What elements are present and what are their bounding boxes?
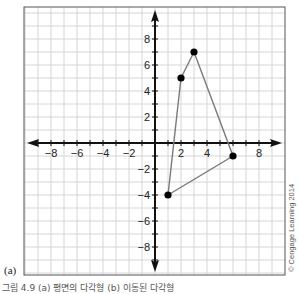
vertex-point [190, 48, 197, 55]
y-tick-label: −2 [137, 163, 150, 175]
y-tick-label: −6 [137, 215, 150, 227]
x-tick-label: 8 [256, 147, 262, 159]
panel-label: (a) [4, 264, 17, 277]
x-tick-label: −4 [97, 147, 110, 159]
polygon-series [164, 48, 236, 198]
coordinate-plane-chart: −8−6−4−22488642−2−4−6−8 (a) © Cengage Le… [0, 0, 298, 294]
vertex-point [177, 74, 184, 81]
figure-caption: 그림 4.9 (a) 평면의 다각형 (b) 이동된 다각형 [2, 281, 174, 294]
vertex-point [164, 191, 171, 198]
x-tick-label: −6 [71, 147, 84, 159]
x-tick-label: 2 [178, 147, 184, 159]
y-tick-label: 4 [144, 85, 150, 97]
x-tick-label: −8 [45, 147, 58, 159]
y-tick-label: 6 [144, 59, 150, 71]
vertex-point [229, 152, 236, 159]
y-tick-label: 2 [144, 111, 150, 123]
y-tick-label: 8 [144, 33, 150, 45]
polygon-edges [168, 52, 233, 195]
x-tick-label: 4 [204, 147, 210, 159]
copyright-credit: © Cengage Learning 2014 [287, 184, 296, 272]
y-tick-label: −4 [137, 189, 150, 201]
y-tick-label: −8 [137, 241, 150, 253]
axes [27, 10, 282, 272]
x-tick-label: −2 [123, 147, 136, 159]
